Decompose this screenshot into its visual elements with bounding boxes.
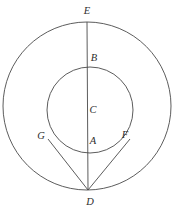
point-label-b: B	[91, 53, 97, 64]
geometry-figure: EBCAGFD	[0, 0, 175, 214]
point-label-g: G	[37, 131, 45, 142]
vertical-diameter-line	[87, 22, 88, 190]
point-label-c: C	[89, 105, 96, 116]
figure-canvas	[0, 0, 175, 214]
point-label-a: A	[90, 136, 96, 147]
point-label-e: E	[84, 6, 90, 17]
tangent-line-right	[88, 139, 130, 190]
point-label-f: F	[122, 130, 128, 141]
point-label-d: D	[86, 197, 94, 208]
